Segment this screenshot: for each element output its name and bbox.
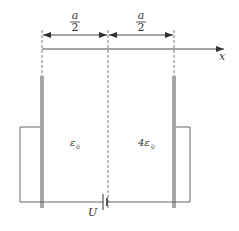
dimension-label-right: a 2 <box>136 9 146 34</box>
left-plate <box>40 76 44 208</box>
svg-text:2: 2 <box>72 21 79 34</box>
circuit-wire-left <box>20 127 103 202</box>
svg-text:ε: ε <box>70 137 75 148</box>
right-plate <box>172 76 176 208</box>
dimension-label-left: a 2 <box>70 9 80 34</box>
svg-text:0: 0 <box>76 143 80 150</box>
voltage-label: U <box>88 206 98 219</box>
svg-text:2: 2 <box>138 21 145 34</box>
svg-text:0: 0 <box>151 143 155 150</box>
permittivity-right: 4ε 0 <box>137 137 155 150</box>
capacitor-diagram: a 2 a 2 x U ε 0 4ε 0 <box>0 0 239 231</box>
x-axis-label: x <box>219 50 226 63</box>
battery-icon <box>103 194 107 210</box>
permittivity-left: ε 0 <box>70 137 80 150</box>
svg-text:4ε: 4ε <box>137 137 150 148</box>
